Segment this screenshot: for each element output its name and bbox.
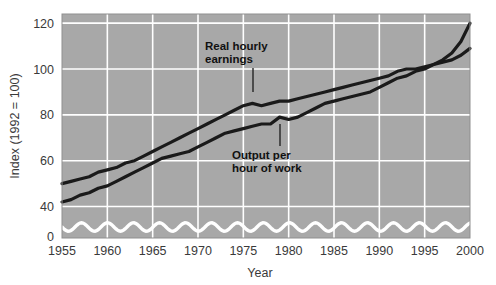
annotation-label-line2: earnings <box>205 53 253 65</box>
line-chart: 0406080100120 19551960196519701975198019… <box>0 0 496 285</box>
x-axis-title: Year <box>247 266 272 280</box>
y-tick-label: 100 <box>33 63 54 77</box>
x-axis-tick-labels: 1955196019651970197519801985199019952000 <box>48 244 484 258</box>
x-tick-label: 1970 <box>184 244 212 258</box>
x-tick-label: 1980 <box>275 244 303 258</box>
x-tick-label: 1965 <box>139 244 167 258</box>
y-axis-title: Index (1992 = 100) <box>8 73 22 178</box>
x-tick-label: 2000 <box>456 244 484 258</box>
x-tick-label: 1960 <box>93 244 121 258</box>
y-tick-label: 0 <box>47 230 54 244</box>
x-tick-label: 1985 <box>320 244 348 258</box>
y-tick-label: 60 <box>40 154 54 168</box>
x-tick-label: 1975 <box>229 244 257 258</box>
chart-figure: 0406080100120 19551960196519701975198019… <box>0 0 496 285</box>
y-tick-label: 80 <box>40 108 54 122</box>
y-tick-label: 120 <box>33 17 54 31</box>
x-tick-label: 1995 <box>411 244 439 258</box>
y-axis-tick-labels: 0406080100120 <box>33 17 54 244</box>
x-tick-label: 1955 <box>48 244 76 258</box>
annotation-label-line1: Output per <box>232 149 291 161</box>
annotation-label-line1: Real hourly <box>205 40 268 52</box>
x-tick-label: 1990 <box>365 244 393 258</box>
y-tick-label: 40 <box>40 200 54 214</box>
annotation-label-line2: hour of work <box>232 162 302 174</box>
